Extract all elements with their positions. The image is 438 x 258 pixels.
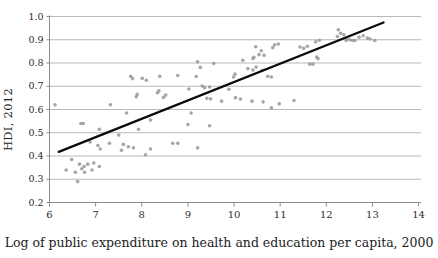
data-point: [361, 34, 365, 38]
data-point: [176, 74, 180, 78]
data-point: [145, 78, 149, 82]
data-point: [311, 62, 315, 66]
data-point: [149, 147, 153, 151]
y-tick-label: 0.5: [28, 127, 43, 138]
data-point: [196, 146, 200, 150]
x-tick-label: 8: [139, 209, 145, 220]
x-tick-label: 7: [92, 209, 98, 220]
data-point: [53, 103, 57, 107]
data-point: [196, 60, 200, 64]
data-point: [273, 43, 277, 47]
data-point: [292, 99, 296, 103]
data-point: [83, 170, 87, 174]
data-point: [262, 54, 266, 58]
x-tick-label: 12: [320, 209, 333, 220]
data-point: [250, 99, 254, 103]
data-point: [220, 99, 224, 103]
data-point: [234, 96, 238, 100]
data-point: [194, 75, 198, 79]
x-tick-label: 14: [412, 209, 425, 220]
x-tick-label: 11: [274, 209, 287, 220]
y-tick-label: 0.4: [28, 150, 43, 161]
y-tick-label: 0.8: [28, 57, 43, 68]
data-point: [259, 49, 263, 53]
x-tick-label: 10: [228, 209, 241, 220]
data-point: [199, 66, 203, 70]
data-point: [270, 106, 274, 110]
data-point: [98, 147, 102, 151]
data-point: [131, 77, 135, 81]
x-tick-label: 13: [366, 209, 379, 220]
data-point: [254, 45, 258, 49]
data-point: [176, 141, 180, 145]
data-point: [122, 143, 126, 147]
data-point: [227, 87, 231, 91]
data-point: [78, 162, 82, 166]
data-point: [277, 42, 281, 46]
y-tick-label: 1.0: [28, 11, 43, 22]
data-point: [342, 33, 346, 37]
data-point: [205, 97, 209, 101]
data-point: [337, 28, 341, 32]
data-point: [241, 58, 245, 62]
plot-canvas: 678910111213140.20.30.40.50.60.70.80.91.…: [0, 0, 438, 258]
data-point: [96, 144, 100, 148]
data-point: [98, 165, 102, 169]
data-point: [157, 89, 161, 93]
data-point: [209, 97, 213, 101]
data-point: [246, 67, 250, 71]
data-point: [277, 102, 281, 106]
data-point: [266, 74, 270, 78]
scatter-chart-figure: 678910111213140.20.30.40.50.60.70.80.91.…: [0, 0, 438, 258]
data-point: [302, 47, 306, 51]
data-point: [357, 35, 361, 39]
y-tick-label: 0.7: [28, 80, 43, 91]
data-point: [187, 87, 191, 91]
data-point: [203, 86, 207, 90]
data-point: [251, 68, 255, 72]
data-point: [120, 148, 124, 152]
data-point: [70, 158, 74, 162]
y-tick-label: 0.2: [28, 197, 43, 208]
data-point: [239, 97, 243, 101]
data-point: [149, 118, 153, 122]
data-point: [90, 168, 94, 172]
data-point: [109, 103, 113, 107]
data-point: [189, 111, 193, 115]
data-point: [127, 145, 131, 149]
data-point: [257, 53, 261, 57]
data-point: [254, 65, 258, 69]
data-point: [298, 45, 302, 49]
data-point: [316, 57, 320, 61]
data-point: [336, 35, 340, 39]
data-point: [125, 111, 129, 115]
data-point: [318, 38, 322, 42]
data-point: [308, 62, 312, 66]
data-point: [339, 31, 343, 35]
data-point: [92, 161, 96, 165]
x-tick-label: 9: [185, 209, 191, 220]
data-point: [270, 75, 274, 79]
data-point: [353, 39, 357, 43]
data-point: [233, 72, 237, 76]
data-point: [64, 168, 68, 172]
data-point: [164, 93, 168, 97]
data-point: [208, 124, 212, 128]
data-point: [171, 141, 175, 145]
y-tick-label: 0.9: [28, 34, 43, 45]
data-point: [86, 162, 90, 166]
data-point: [144, 153, 148, 157]
x-tick-label: 6: [46, 209, 52, 220]
data-point: [132, 146, 136, 150]
data-point: [76, 180, 80, 184]
data-point: [208, 85, 212, 89]
data-point: [81, 122, 85, 126]
data-point: [74, 170, 78, 174]
data-point: [117, 133, 121, 137]
data-point: [212, 62, 216, 66]
y-tick-label: 0.6: [28, 104, 43, 115]
data-point: [82, 165, 86, 169]
data-point: [368, 37, 372, 41]
data-point: [373, 39, 377, 43]
data-point: [261, 100, 265, 104]
